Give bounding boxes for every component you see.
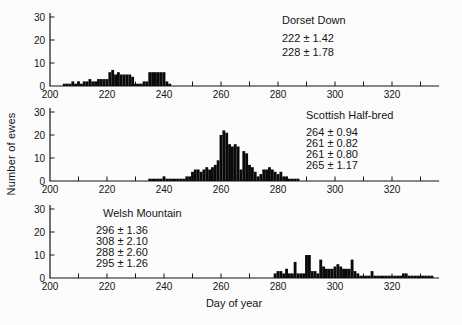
histogram-bar (165, 81, 168, 86)
histogram-bar (220, 135, 223, 181)
x-tick-label: 320 (384, 281, 401, 292)
histogram-bar (416, 276, 419, 278)
y-tick-label: 10 (34, 58, 46, 69)
histogram-bar (262, 170, 265, 182)
y-tick-label: 10 (34, 250, 46, 261)
x-tick-label: 220 (99, 89, 116, 100)
x-tick-label: 220 (99, 184, 116, 195)
annotation-line: 265 ± 1.17 (306, 160, 393, 171)
histogram-bar (302, 273, 305, 278)
histogram-bar (180, 179, 183, 181)
histogram-bar (319, 260, 322, 278)
histogram-bar (86, 81, 89, 86)
histogram-bar (339, 267, 342, 279)
histogram-bar (274, 273, 277, 278)
x-tick-label: 300 (327, 281, 344, 292)
histogram-bar (234, 144, 237, 181)
histogram-bar (103, 79, 106, 86)
histogram-bar (391, 276, 394, 278)
histogram-bar (382, 276, 385, 278)
histogram-bar (342, 269, 345, 278)
histogram-bar (368, 276, 371, 278)
y-tick-label: 20 (34, 227, 46, 238)
histogram-bar (171, 179, 174, 181)
histogram-bar (137, 84, 140, 86)
histogram-bar (174, 179, 177, 181)
histogram-bar (311, 271, 314, 278)
histogram-bar (294, 262, 297, 278)
histogram-bar (411, 276, 414, 278)
histogram-bar (80, 84, 83, 86)
histogram-bar (373, 276, 376, 278)
x-tick-label: 240 (156, 89, 173, 100)
histogram-bar (191, 172, 194, 181)
histogram-bar (91, 81, 94, 86)
histogram-bar (188, 176, 191, 181)
histogram-bar (222, 130, 225, 181)
histogram-bar (316, 273, 319, 278)
histogram-bar (157, 72, 160, 86)
histogram-bar (217, 160, 220, 181)
histogram-bar (430, 276, 433, 278)
histogram-bar (291, 273, 294, 278)
histogram-bar (277, 174, 280, 181)
histogram-bar (128, 75, 131, 87)
histogram-bar (143, 81, 146, 86)
x-tick-label: 280 (270, 184, 287, 195)
panel-1-plot: 0102030200220240260280300320 (34, 12, 439, 101)
histogram-bar (348, 269, 351, 278)
x-tick-label: 200 (42, 281, 59, 292)
x-tick-label: 320 (384, 89, 401, 100)
histogram-bar (328, 269, 331, 278)
y-tick-label: 30 (34, 12, 46, 23)
histogram-bar (277, 271, 280, 278)
histogram-bar (231, 147, 234, 182)
histogram-bar (183, 179, 186, 181)
histogram-bar (325, 269, 328, 278)
histogram-bar (419, 276, 422, 278)
histogram-bar (396, 276, 399, 278)
x-tick-label: 300 (327, 184, 344, 195)
histogram-bar (134, 84, 137, 86)
histogram-bar (200, 172, 203, 181)
x-tick-label: 260 (213, 89, 230, 100)
x-tick-label: 220 (99, 281, 116, 292)
histogram-bar (336, 264, 339, 278)
histogram-bar (385, 276, 388, 278)
x-tick-label: 200 (42, 184, 59, 195)
y-tick-label: 20 (34, 130, 46, 141)
histogram-bar (211, 167, 214, 181)
histogram-bar (354, 271, 357, 278)
histogram-bar (365, 276, 368, 278)
histogram-bar (100, 79, 103, 86)
histogram-bar (279, 172, 282, 181)
histogram-bar (63, 84, 66, 86)
histogram-bar (148, 179, 151, 181)
histogram-bar (393, 276, 396, 278)
x-tick-label: 280 (270, 281, 287, 292)
panel-1-annotation: Dorset Down222 ± 1.42228 ± 1.78 (282, 15, 346, 59)
x-tick-label: 300 (327, 89, 344, 100)
histogram-bar (282, 176, 285, 181)
histogram-bar (265, 170, 268, 182)
histogram-bar (288, 179, 291, 181)
histogram-bar (240, 170, 243, 182)
histogram-bar (251, 167, 254, 181)
histogram-bar (294, 179, 297, 181)
histogram-bar (245, 153, 248, 181)
panel-title: Dorset Down (282, 15, 346, 26)
histogram-bar (151, 72, 154, 86)
histogram-bar (308, 255, 311, 278)
histogram-bar (160, 72, 163, 86)
histogram-bar (279, 271, 282, 278)
histogram-bar (282, 273, 285, 278)
histogram-bar (131, 77, 134, 86)
y-tick-label: 30 (34, 204, 46, 215)
histogram-bar (71, 81, 74, 86)
annotation-line: 228 ± 1.78 (282, 45, 346, 59)
histogram-bar (154, 179, 157, 181)
panel-2-annotation: Scottish Half-bred264 ± 0.94261 ± 0.8226… (306, 110, 393, 171)
histogram-bar (334, 267, 337, 279)
x-tick-label: 200 (42, 89, 59, 100)
histogram-bar (271, 170, 274, 182)
